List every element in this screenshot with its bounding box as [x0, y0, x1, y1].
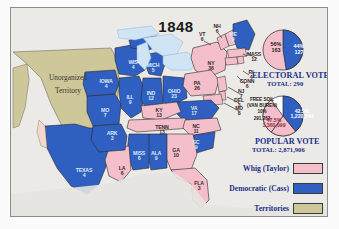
popular-vote-heading: POPULAR VOTE — [255, 137, 320, 146]
legend-swatch — [293, 183, 323, 194]
legend-label: Territories — [254, 204, 289, 213]
popular-dem-votes: 1,220,544 — [290, 113, 313, 119]
legend-row-territories: Territories — [207, 203, 323, 214]
popular-vote-total: TOTAL: 2,871,906 — [252, 146, 305, 153]
legend-label: Democratic (Cass) — [229, 184, 289, 193]
map-plate-frame: 1848 Unorganized Territory VT6NH6ME9MASS… — [10, 7, 328, 217]
legend-swatch — [293, 163, 323, 174]
popular-whig-votes: 1,360,099 — [262, 122, 285, 128]
map-plate: 1848 Unorganized Territory VT6NH6ME9MASS… — [11, 8, 327, 216]
election-map-page: 1848 Unorganized Territory VT6NH6ME9MASS… — [0, 0, 339, 229]
legend-row-democratic-cass: Democratic (Cass) — [207, 183, 323, 194]
legend-row-whig-taylor: Whig (Taylor) — [207, 163, 323, 174]
legend-swatch — [293, 203, 323, 214]
popular-whig-label: 47.5% 1,360,099 — [259, 118, 289, 129]
legend-label: Whig (Taylor) — [243, 164, 289, 173]
popular-democratic-label: 42.5% 1,220,544 — [287, 109, 317, 120]
